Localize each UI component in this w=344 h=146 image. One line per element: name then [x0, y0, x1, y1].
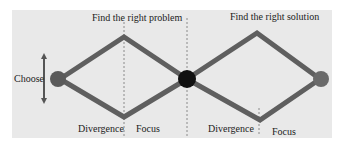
label-left-focus: Focus	[136, 124, 160, 134]
right-diamond-bottom	[187, 79, 320, 120]
label-left-divergence: Divergence	[78, 124, 124, 134]
choose-arrow-down-icon	[41, 98, 47, 104]
label-find-right-solution: Find the right solution	[230, 12, 319, 22]
label-choose: Choose	[14, 74, 44, 84]
right-diamond-top	[187, 33, 320, 79]
end-node	[313, 71, 329, 87]
label-right-divergence: Divergence	[208, 124, 254, 134]
start-node	[50, 71, 66, 87]
middle-node	[178, 70, 196, 88]
choose-arrow-up-icon	[41, 53, 47, 59]
label-right-focus: Focus	[272, 127, 296, 137]
label-find-right-problem: Find the right problem	[92, 13, 182, 23]
